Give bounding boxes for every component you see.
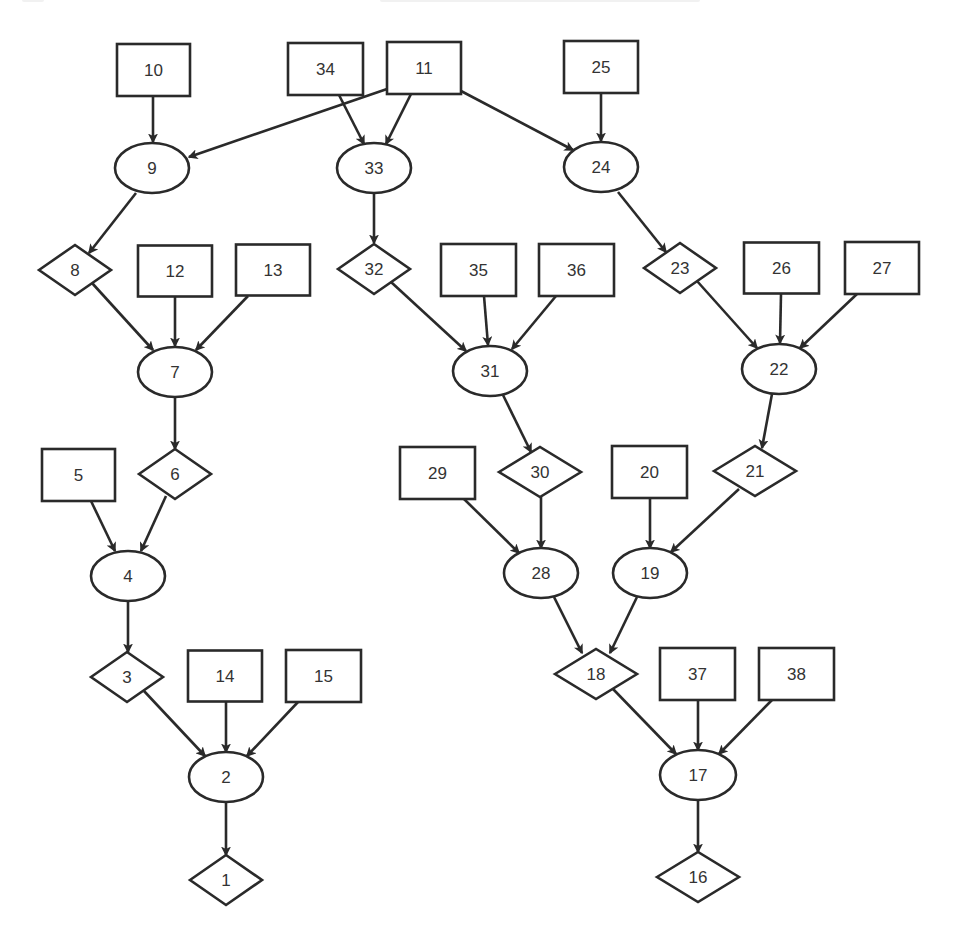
node-label: 5	[74, 466, 83, 485]
node-8: 8	[39, 245, 111, 295]
node-29: 29	[400, 447, 475, 499]
edge-13-to-7	[196, 296, 248, 350]
node-35: 35	[441, 244, 516, 296]
node-11: 11	[387, 42, 461, 94]
node-label: 37	[688, 665, 707, 684]
node-36: 36	[539, 244, 614, 296]
node-label: 4	[123, 567, 132, 586]
node-label: 29	[428, 464, 447, 483]
edge-22-to-21	[762, 394, 772, 448]
node-19: 19	[613, 548, 687, 598]
node-label: 30	[531, 463, 550, 482]
directed-graph: 1034112593324812133235362326277312256293…	[0, 0, 955, 941]
node-4: 4	[91, 551, 165, 601]
node-25: 25	[564, 41, 638, 93]
node-label: 23	[671, 259, 690, 278]
node-20: 20	[612, 446, 687, 498]
node-1: 1	[190, 855, 262, 905]
edge-11-to-24	[461, 91, 573, 150]
node-label: 8	[70, 261, 79, 280]
node-30: 30	[499, 447, 581, 497]
node-5: 5	[42, 449, 115, 501]
node-16: 16	[657, 852, 739, 902]
node-label: 27	[873, 259, 892, 278]
node-15: 15	[286, 650, 361, 702]
node-label: 22	[770, 360, 789, 379]
node-24: 24	[564, 142, 638, 192]
node-label: 10	[144, 61, 163, 80]
node-label: 14	[216, 667, 235, 686]
node-label: 26	[772, 259, 791, 278]
node-label: 17	[689, 766, 708, 785]
node-label: 36	[567, 261, 586, 280]
node-7: 7	[138, 347, 212, 397]
edge-24-to-23	[618, 192, 666, 252]
node-34: 34	[288, 43, 363, 95]
node-label: 12	[166, 262, 185, 281]
node-label: 19	[641, 564, 660, 583]
node-label: 3	[122, 668, 131, 687]
node-14: 14	[188, 651, 262, 702]
node-label: 18	[587, 665, 606, 684]
edge-29-to-28	[464, 499, 519, 553]
node-label: 25	[592, 58, 611, 77]
node-13: 13	[236, 245, 310, 296]
node-28: 28	[504, 548, 578, 598]
nodes-layer: 1034112593324812133235362326277312256293…	[39, 41, 919, 905]
node-label: 7	[170, 363, 179, 382]
node-2: 2	[189, 752, 263, 802]
node-17: 17	[660, 750, 736, 800]
node-label: 1	[221, 871, 230, 890]
node-32: 32	[338, 244, 410, 294]
node-label: 21	[746, 462, 765, 481]
node-label: 35	[469, 261, 488, 280]
edge-9-to-8	[89, 193, 136, 253]
diagram-canvas: 1034112593324812133235362326277312256293…	[0, 0, 955, 941]
edge-6-to-4	[141, 496, 166, 551]
node-22: 22	[742, 344, 816, 394]
edge-28-to-18	[554, 597, 582, 653]
edge-36-to-31	[512, 296, 556, 349]
edge-38-to-17	[719, 700, 772, 754]
node-38: 38	[759, 648, 834, 700]
node-label: 33	[365, 159, 384, 178]
node-label: 20	[640, 463, 659, 482]
edge-15-to-2	[247, 702, 298, 756]
node-33: 33	[337, 143, 411, 193]
node-label: 13	[264, 261, 283, 280]
node-label: 9	[147, 159, 156, 178]
node-27: 27	[845, 242, 919, 294]
node-6: 6	[139, 449, 211, 499]
node-12: 12	[138, 246, 212, 297]
node-31: 31	[453, 346, 527, 396]
node-label: 2	[221, 768, 230, 787]
node-label: 16	[689, 868, 708, 887]
node-37: 37	[660, 648, 735, 700]
edge-26-to-22	[780, 294, 781, 343]
node-23: 23	[644, 243, 716, 293]
node-26: 26	[744, 243, 819, 294]
edge-11-to-33	[386, 94, 411, 144]
node-label: 15	[314, 667, 333, 686]
node-18: 18	[555, 649, 637, 699]
edge-27-to-22	[800, 294, 857, 348]
edge-5-to-4	[91, 501, 115, 551]
node-label: 31	[481, 362, 500, 381]
edge-35-to-31	[484, 296, 488, 345]
node-label: 28	[532, 564, 551, 583]
node-label: 34	[316, 60, 335, 79]
edge-31-to-30	[503, 395, 531, 452]
node-label: 32	[365, 260, 384, 279]
node-3: 3	[91, 652, 163, 702]
node-21: 21	[714, 446, 796, 496]
node-label: 24	[592, 158, 611, 177]
node-10: 10	[117, 44, 190, 96]
node-label: 6	[170, 465, 179, 484]
edge-19-to-18	[610, 597, 637, 653]
node-label: 11	[415, 59, 433, 78]
node-label: 38	[787, 665, 806, 684]
node-9: 9	[115, 143, 189, 193]
